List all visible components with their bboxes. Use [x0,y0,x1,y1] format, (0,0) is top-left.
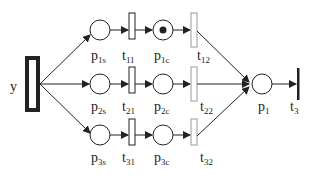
label-p2s: p2s [91,99,107,116]
transition-t21 [129,67,135,93]
label-t22: t22 [200,99,213,116]
label-y: y [10,79,17,94]
label-p3c: p3c [154,150,170,167]
transition-t3 [297,68,300,100]
transition-t22 [191,67,197,101]
petri-net-diagram: y p1s t11 p1c t12 p2s t21 p2c t22 [0,0,313,180]
arc-y-p1s [40,35,90,84]
place-p2s [90,74,110,94]
place-p1 [252,74,272,94]
place-p2c [153,74,173,94]
transition-t12 [191,13,197,47]
label-p2c: p2c [154,99,170,116]
label-t11: t11 [122,48,135,65]
label-t3: t3 [290,99,299,116]
label-p1s: p1s [91,48,107,65]
token-icon [160,27,167,34]
label-t31: t31 [122,150,135,167]
branch-2: p2s t21 p2c t22 [90,67,249,116]
label-t32: t32 [200,150,213,167]
transition-t31 [129,119,135,145]
branch-3: p3s t31 p3c t32 [90,87,249,167]
place-p3c [153,125,173,145]
arc-y-p3s [40,84,90,133]
label-p3s: p3s [91,150,107,167]
branch-1: p1s t11 p1c t12 [90,13,249,82]
transition-t32 [191,119,197,145]
label-t12: t12 [197,48,210,65]
label-p1c: p1c [154,48,170,65]
place-p3s [90,125,110,145]
label-t21: t21 [122,99,135,116]
transition-y [27,58,38,110]
label-p1: p1 [258,99,270,116]
place-p1s [90,20,110,40]
transition-t11 [129,13,135,39]
